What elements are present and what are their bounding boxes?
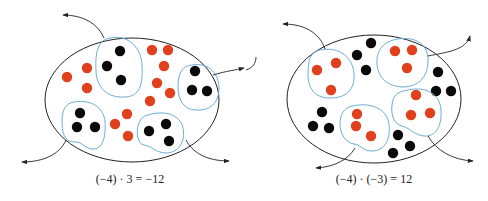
positive-counter-icon xyxy=(308,121,318,131)
group-outline xyxy=(377,38,428,87)
negative-counter-icon xyxy=(145,96,155,106)
negative-counter-icon xyxy=(82,63,92,73)
counter-multiplication-figure xyxy=(0,0,488,201)
negative-counter-icon xyxy=(147,45,157,55)
positive-counter-icon xyxy=(161,119,171,129)
group-bottom-right xyxy=(392,89,441,136)
positive-counter-icon xyxy=(116,75,126,85)
positive-counter-icon xyxy=(90,122,100,132)
group-top-right xyxy=(377,38,428,87)
positive-counter-icon xyxy=(202,86,212,96)
stray-curve-left xyxy=(246,57,256,70)
negative-counter-icon xyxy=(366,131,376,141)
positive-counter-icon xyxy=(187,85,197,95)
group-top-left xyxy=(308,49,354,98)
positive-counter-icon xyxy=(388,148,398,158)
negative-counter-icon xyxy=(390,46,400,56)
group-bottom-right xyxy=(137,113,183,153)
negative-counter-icon xyxy=(406,110,416,120)
arrow-remove-right-icon xyxy=(213,68,244,75)
group-right xyxy=(178,65,219,111)
positive-counter-icon xyxy=(433,67,443,77)
diagram-negative-times-positive xyxy=(22,15,244,162)
group-outline xyxy=(340,105,389,151)
positive-counter-icon xyxy=(405,141,415,151)
negative-counter-icon xyxy=(123,131,133,141)
positive-counter-icon xyxy=(366,38,376,48)
positive-counter-icon xyxy=(190,66,200,76)
negative-counter-icon xyxy=(82,83,92,93)
positive-counter-icon xyxy=(317,107,327,117)
arrow-remove-bottom-left-icon xyxy=(22,140,66,162)
negative-counter-icon xyxy=(312,65,322,75)
negative-counter-icon xyxy=(411,90,421,100)
negative-counter-icon xyxy=(352,109,362,119)
negative-counter-icon xyxy=(407,45,417,55)
negative-counter-icon xyxy=(326,85,336,95)
arrow-remove-bottom-right-icon xyxy=(186,140,229,161)
positive-counter-icon xyxy=(361,65,371,75)
group-top xyxy=(96,37,142,97)
diagram-negative-times-negative xyxy=(246,24,473,168)
positive-counter-icon xyxy=(164,136,174,146)
positive-counter-icon xyxy=(75,108,85,118)
negative-counter-icon xyxy=(122,109,132,119)
positive-counter-icon xyxy=(393,130,403,140)
arrow-remove-bottom-middle-icon xyxy=(316,148,355,168)
arrow-remove-top-icon xyxy=(63,15,104,38)
negative-counter-icon xyxy=(159,61,169,71)
negative-counter-icon xyxy=(402,63,412,73)
positive-counter-icon xyxy=(115,46,125,56)
positive-counter-icon xyxy=(72,122,82,132)
arrow-remove-top-left-icon xyxy=(283,24,325,49)
negative-counter-icon xyxy=(165,88,175,98)
arrow-remove-bottom-right-icon xyxy=(428,136,473,161)
negative-counter-icon xyxy=(110,119,120,129)
positive-counter-icon xyxy=(324,123,334,133)
positive-counter-icon xyxy=(102,61,112,71)
negative-counter-icon xyxy=(351,121,361,131)
group-bottom-middle xyxy=(340,105,389,151)
negative-counter-icon xyxy=(425,108,435,118)
positive-counter-icon xyxy=(431,86,441,96)
negative-counter-icon xyxy=(152,78,162,88)
negative-counter-icon xyxy=(163,45,173,55)
positive-counter-icon xyxy=(352,50,362,60)
negative-counter-icon xyxy=(331,58,341,68)
caption-right-equation: (−4) · (−3) = 12 xyxy=(336,172,412,187)
set-boundary-ellipse xyxy=(45,38,219,162)
positive-counter-icon xyxy=(446,86,456,96)
positive-counter-icon xyxy=(144,126,154,136)
caption-left-equation: (−4) · 3 = −12 xyxy=(96,172,164,187)
negative-counter-icon xyxy=(62,72,72,82)
